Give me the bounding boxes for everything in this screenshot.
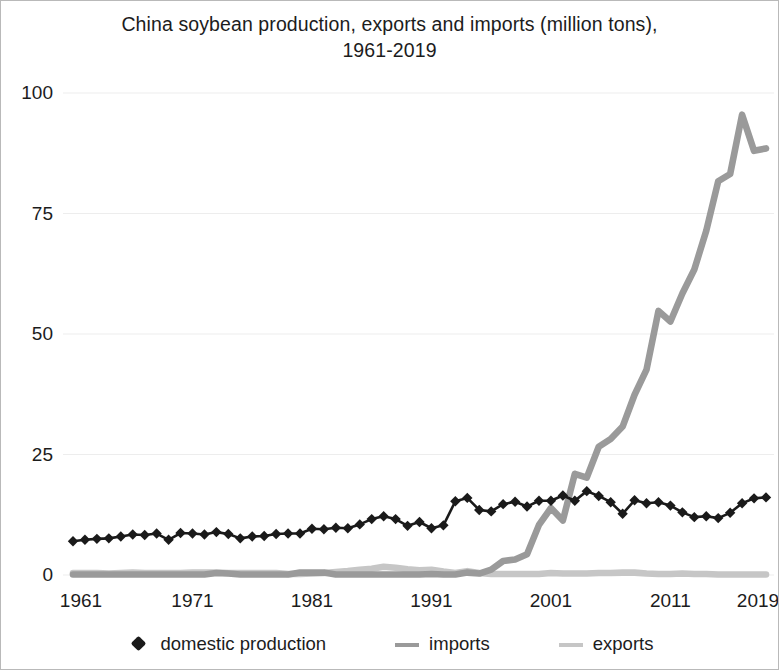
x-tick-1961: 1961 [60,590,102,612]
data-point-marker [187,528,197,538]
data-point-marker [534,496,544,506]
data-point-marker [594,491,604,501]
y-tick-25: 25 [1,444,53,466]
data-point-marker [426,523,436,533]
data-point-marker [390,514,400,524]
data-point-marker [331,523,341,533]
data-point-marker [510,497,520,507]
chart-page: China soybean production, exports and im… [0,0,779,670]
legend-label: domestic production [161,633,327,655]
data-point-marker [211,527,221,537]
data-point-marker [163,535,173,545]
data-point-marker [235,533,245,543]
data-point-marker [271,529,281,539]
y-tick-0: 0 [1,564,53,586]
plot-area: 0255075100 1961197119811991200120112019 [1,1,778,669]
data-point-marker [175,528,185,538]
y-tick-50: 50 [1,323,53,345]
y-tick-75: 75 [1,203,53,225]
legend-label: imports [429,633,490,655]
data-point-marker [80,535,90,545]
line-swatch-icon [558,637,584,651]
data-point-marker [665,500,675,510]
data-point-marker [355,519,365,529]
data-point-marker [713,513,723,523]
data-point-marker [223,529,233,539]
data-point-marker [761,492,771,502]
chart-card: China soybean production, exports and im… [1,1,778,669]
data-point-marker [104,533,114,543]
line-swatch-icon [394,637,420,651]
data-point-marker [307,524,317,534]
legend-item-imports[interactable]: imports [394,633,490,655]
data-point-marker [68,536,78,546]
data-point-marker [343,523,353,533]
diamond-marker-icon [126,637,152,651]
x-tick-2001: 2001 [530,590,572,612]
data-series-layer [68,115,771,575]
legend-item-domestic-production[interactable]: domestic production [126,633,327,655]
data-point-marker [641,498,651,508]
data-point-marker [546,496,556,506]
data-point-marker [402,521,412,531]
chart-canvas [1,1,778,669]
x-tick-1971: 1971 [171,590,213,612]
data-point-marker [689,512,699,522]
data-point-marker [653,497,663,507]
x-tick-1981: 1981 [291,590,333,612]
data-point-marker [116,531,126,541]
legend-label: exports [593,633,654,655]
data-point-marker [283,528,293,538]
data-point-marker [367,514,377,524]
x-tick-2011: 2011 [650,590,691,612]
x-tick-1991: 1991 [410,590,452,612]
data-point-marker [92,534,102,544]
data-point-marker [749,493,759,503]
data-point-marker [438,520,448,530]
y-tick-100: 100 [1,82,53,104]
legend-item-exports[interactable]: exports [558,633,654,655]
data-point-marker [247,531,257,541]
data-point-marker [522,501,532,511]
data-point-marker [701,511,711,521]
data-point-marker [414,517,424,527]
data-point-marker [199,529,209,539]
series-domestic-production [68,486,771,547]
data-point-marker [677,507,687,517]
series-imports [73,115,766,575]
data-point-marker [151,528,161,538]
gridlines [63,93,774,575]
data-point-marker [378,511,388,521]
series-line-imports [73,115,766,575]
data-point-marker [450,496,460,506]
chart-legend: domestic productionimportsexports [1,633,778,655]
x-tick-2019: 2019 [737,590,779,612]
data-point-marker [139,530,149,540]
data-point-marker [128,529,138,539]
data-point-marker [295,528,305,538]
data-point-marker [319,524,329,534]
data-point-marker [259,531,269,541]
